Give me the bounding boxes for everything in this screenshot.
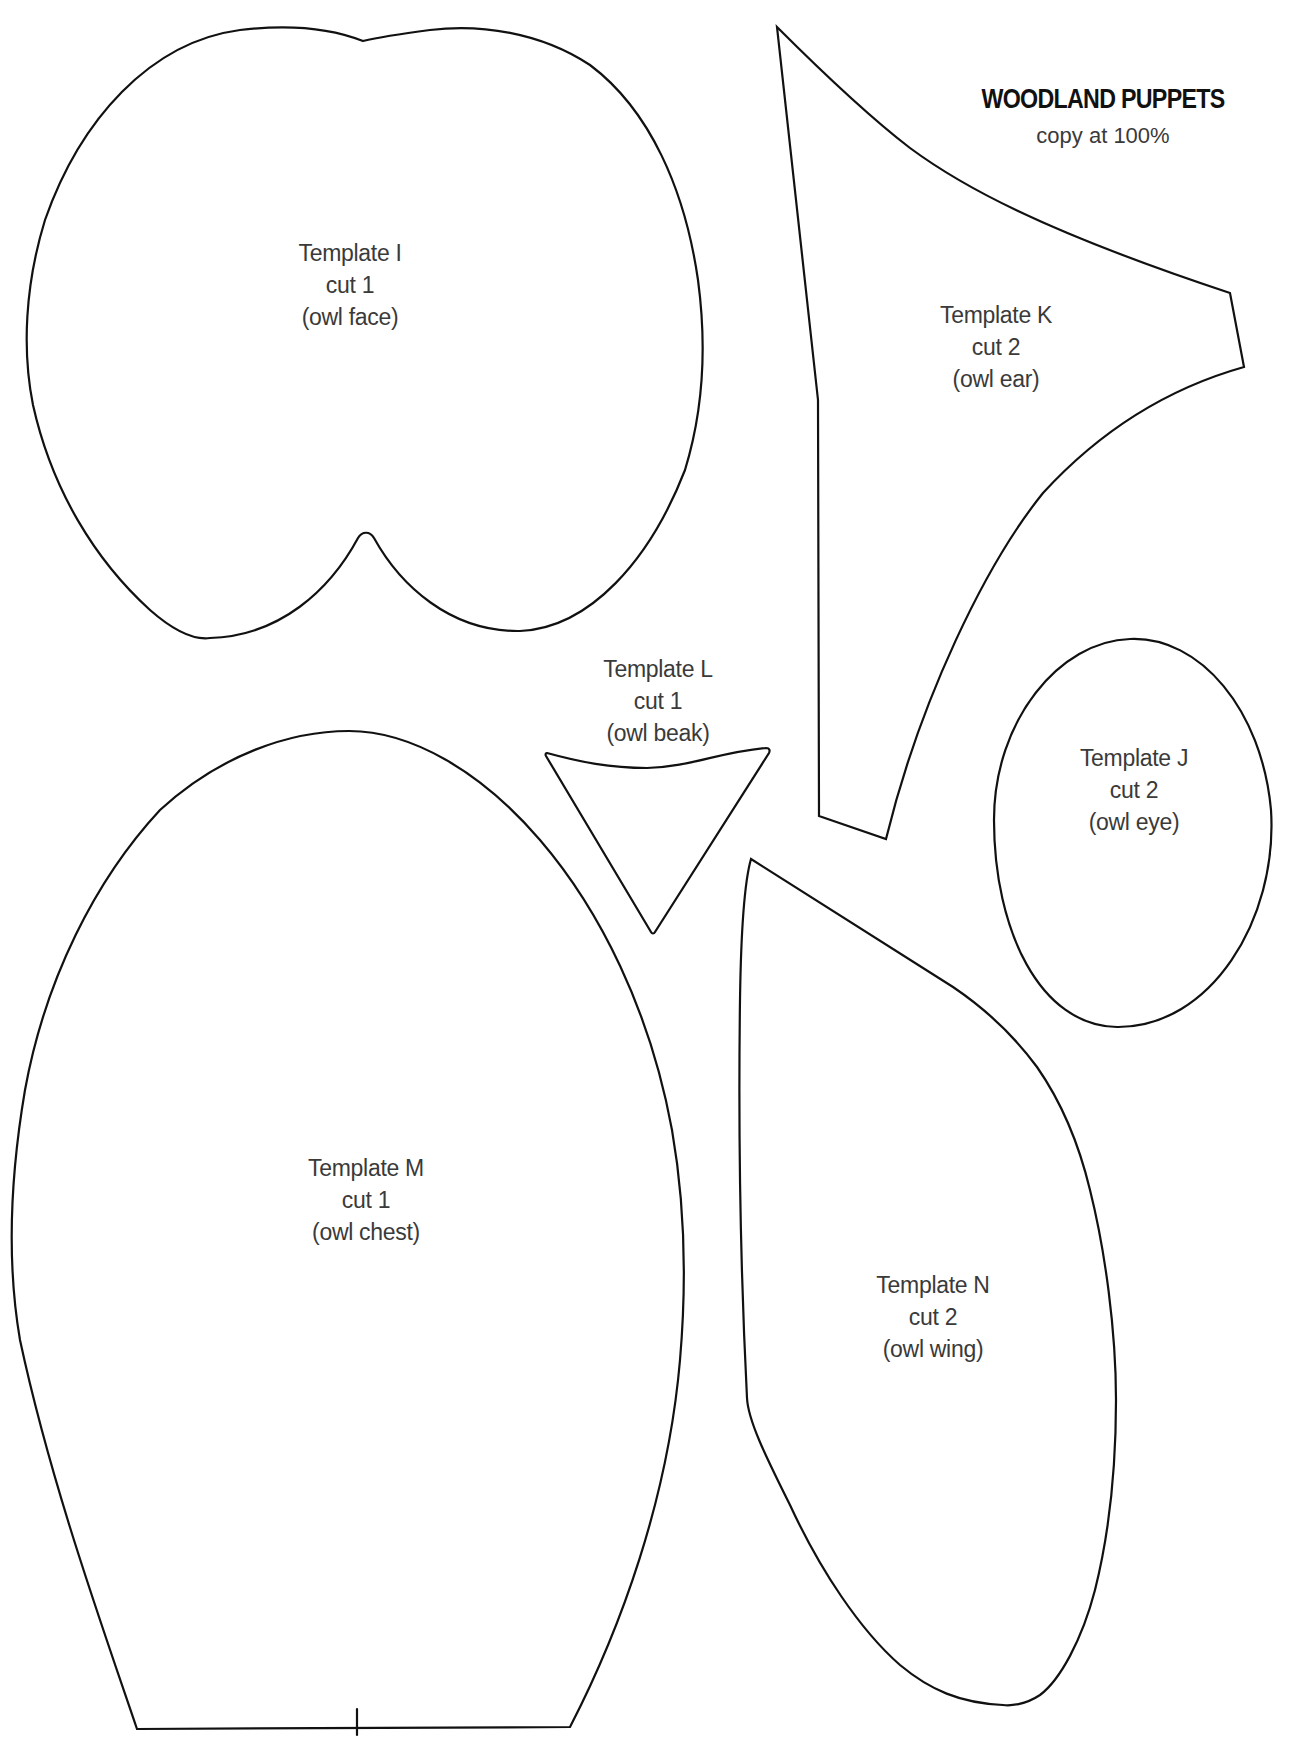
template-label-owl-wing: Template N cut 2 (owl wing) xyxy=(876,1269,989,1365)
template-part: (owl wing) xyxy=(876,1333,989,1365)
template-part: (owl ear) xyxy=(940,363,1052,395)
template-name: Template N xyxy=(876,1269,989,1301)
template-part: (owl chest) xyxy=(308,1216,424,1248)
template-label-owl-face: Template I cut 1 (owl face) xyxy=(298,237,401,333)
template-cut-count: cut 1 xyxy=(308,1184,424,1216)
template-cut-count: cut 2 xyxy=(876,1301,989,1333)
template-label-owl-chest: Template M cut 1 (owl chest) xyxy=(308,1152,424,1248)
template-label-owl-ear: Template K cut 2 (owl ear) xyxy=(940,299,1052,395)
document-title: WOODLAND PUPPETS xyxy=(981,83,1224,115)
document-subtitle: copy at 100% xyxy=(962,121,1245,151)
template-name: Template M xyxy=(308,1152,424,1184)
template-name: Template K xyxy=(940,299,1052,331)
template-part: (owl eye) xyxy=(1080,806,1188,838)
template-part: (owl face) xyxy=(298,301,401,333)
template-name: Template J xyxy=(1080,742,1188,774)
template-label-owl-eye: Template J cut 2 (owl eye) xyxy=(1080,742,1188,838)
document-header: WOODLAND PUPPETS copy at 100% xyxy=(962,83,1245,151)
template-cut-count: cut 2 xyxy=(940,331,1052,363)
template-name: Template I xyxy=(298,237,401,269)
template-label-owl-beak: Template L cut 1 (owl beak) xyxy=(603,653,713,749)
template-part: (owl beak) xyxy=(603,717,713,749)
template-name: Template L xyxy=(603,653,713,685)
template-cut-count: cut 2 xyxy=(1080,774,1188,806)
owl-beak-outline xyxy=(546,748,770,934)
template-outlines xyxy=(0,0,1312,1741)
template-sheet: WOODLAND PUPPETS copy at 100% Template I… xyxy=(0,0,1312,1741)
template-cut-count: cut 1 xyxy=(298,269,401,301)
template-cut-count: cut 1 xyxy=(603,685,713,717)
